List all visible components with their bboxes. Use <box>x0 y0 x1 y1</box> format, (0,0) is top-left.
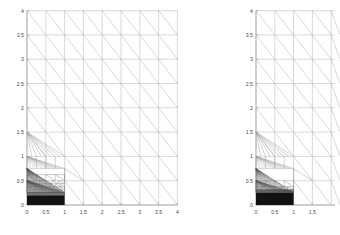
mesh-diagonal <box>140 59 159 83</box>
mesh-left <box>27 11 177 205</box>
mesh-diagonal <box>331 59 340 83</box>
mesh-diagonal <box>256 35 275 59</box>
mesh-diagonal <box>140 181 159 205</box>
mesh-diagonal <box>102 59 121 83</box>
layer-dark-band <box>27 192 65 195</box>
layer-diagonal <box>57 187 61 190</box>
mesh-diagonal <box>312 59 331 83</box>
mesh-diagonal <box>275 35 294 59</box>
mesh-diagonal <box>121 156 140 180</box>
mesh-diagonal <box>121 84 140 108</box>
mesh-diagonal <box>83 84 102 108</box>
y-tick-label: 2.5 <box>17 81 24 87</box>
mesh-diagonal <box>102 35 121 59</box>
layer-diagonal <box>46 175 55 181</box>
y-tick-label: 1 <box>250 153 253 159</box>
figure-canvas: 00.511.522.533.5400.511.522.533.54 00.51… <box>0 0 340 235</box>
mesh-diagonal <box>312 132 331 156</box>
x-tick-label: 0.5 <box>271 209 278 215</box>
mesh-diagonal <box>331 132 340 156</box>
y-tick-label: 0.5 <box>246 178 253 184</box>
mesh-right <box>256 11 340 205</box>
mesh-diagonal <box>65 181 84 205</box>
mesh-diagonal <box>275 59 294 83</box>
mesh-diagonal <box>159 156 178 180</box>
mesh-diagonal <box>83 181 102 205</box>
y-tick-label: 2 <box>21 105 24 111</box>
mesh-diagonal <box>331 108 340 132</box>
mesh-diagonal <box>27 108 46 132</box>
mesh-diagonal <box>312 181 331 205</box>
mesh-diagonal <box>140 156 159 180</box>
mesh-diagonal <box>331 181 340 205</box>
x-tick-label: 1 <box>63 209 66 215</box>
y-tick-label: 0 <box>21 202 24 208</box>
mesh-diagonal <box>294 108 313 132</box>
mesh-diagonal <box>102 11 121 35</box>
mesh-diagonal <box>312 156 331 180</box>
mesh-diagonal <box>159 35 178 59</box>
layer-diagonal <box>60 184 65 187</box>
mesh-diagonal <box>83 132 102 156</box>
y-tick-label: 1.5 <box>17 129 24 135</box>
x-tick-label: 1 <box>292 209 295 215</box>
mesh-diagonal <box>102 108 121 132</box>
mesh-diagonal <box>275 108 294 132</box>
mesh-diagonal <box>159 11 178 35</box>
mesh-svg-right: 00.511.500.511.522.533.54 <box>246 0 340 235</box>
mesh-diagonal <box>140 108 159 132</box>
mesh-svg-left: 00.511.522.533.5400.511.522.533.54 <box>0 0 182 235</box>
mesh-diagonal <box>27 35 46 59</box>
mesh-diagonal <box>102 181 121 205</box>
x-tick-label: 0 <box>255 209 258 215</box>
mesh-diagonal <box>294 156 313 180</box>
mesh-diagonal <box>275 84 294 108</box>
layer-diagonal <box>58 181 64 184</box>
mesh-diagonal <box>102 132 121 156</box>
mesh-diagonal <box>256 11 275 35</box>
mesh-diagonal <box>159 84 178 108</box>
layer-diagonal <box>55 184 60 187</box>
mesh-diagonal <box>27 59 46 83</box>
y-tick-label: 3 <box>250 56 253 62</box>
mesh-diagonal <box>294 59 313 83</box>
layer-diagonal <box>287 187 293 190</box>
y-tick-label: 0.5 <box>17 178 24 184</box>
mesh-diagonal <box>65 132 84 156</box>
mesh-diagonal <box>102 84 121 108</box>
mesh-fan-line <box>256 132 275 156</box>
mesh-diagonal <box>159 108 178 132</box>
mesh-diagonal <box>121 108 140 132</box>
mesh-diagonal <box>294 11 313 35</box>
mesh-diagonal <box>27 11 46 35</box>
x-tick-label: 3.5 <box>155 209 162 215</box>
mesh-diagonal <box>331 35 340 59</box>
mesh-diagonal <box>275 11 294 35</box>
x-tick-label: 1.5 <box>80 209 87 215</box>
mesh-diagonal <box>121 181 140 205</box>
y-tick-label: 3.5 <box>17 32 24 38</box>
mesh-diagonal <box>159 181 178 205</box>
mesh-diagonal <box>294 84 313 108</box>
mesh-diagonal <box>65 59 84 83</box>
mesh-diagonal <box>46 59 65 83</box>
mesh-diagonal <box>65 156 84 180</box>
layer-diagonal <box>55 175 64 181</box>
mesh-diagonal <box>83 11 102 35</box>
mesh-diagonal <box>159 132 178 156</box>
mesh-diagonal <box>256 59 275 83</box>
mesh-diagonal <box>331 156 340 180</box>
mesh-diagonal <box>83 108 102 132</box>
mesh-diagonal <box>294 132 313 156</box>
mesh-diagonal <box>121 35 140 59</box>
mesh-diagonal <box>83 59 102 83</box>
mesh-connector <box>65 169 84 181</box>
mesh-diagonal <box>256 108 275 132</box>
mesh-diagonal <box>65 84 84 108</box>
mesh-diagonal <box>65 35 84 59</box>
mesh-diagonal <box>46 84 65 108</box>
mesh-diagonal <box>331 84 340 108</box>
mesh-diagonal <box>140 84 159 108</box>
mesh-diagonal <box>121 59 140 83</box>
y-tick-label: 2 <box>250 105 253 111</box>
